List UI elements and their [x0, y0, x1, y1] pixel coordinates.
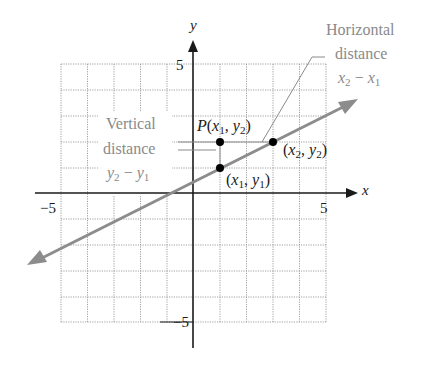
vertical-expression: y2 − y1	[107, 165, 149, 184]
y-tick-neg5: −5	[173, 315, 189, 330]
horizontal-expression: x2 − x1	[338, 70, 380, 89]
vertical-label-line2: distance	[103, 141, 155, 157]
point-q	[269, 138, 277, 146]
vertical-label-line1: Vertical	[106, 116, 156, 132]
point-r	[216, 164, 224, 172]
x-axis-label: x	[362, 183, 369, 198]
axes	[35, 50, 348, 348]
y-tick-5: 5	[176, 58, 184, 73]
line-arrow-left-icon	[27, 250, 47, 265]
point-r-label: (x1, y1)	[226, 172, 270, 191]
point-p-label: P(x1, y2)	[197, 118, 251, 137]
point-q-label: (x2, y2)	[283, 142, 327, 161]
x-tick-5: 5	[320, 201, 328, 216]
horizontal-label-line2: distance	[335, 46, 387, 62]
vertical-distance-leaders	[178, 142, 220, 168]
y-axis-arrow-icon	[188, 40, 198, 52]
line-arrow-right-icon	[338, 99, 358, 114]
horizontal-label-line1: Horizontal	[326, 22, 394, 38]
x-tick-neg5: −5	[40, 201, 56, 216]
horizontal-distance-leader	[262, 57, 325, 142]
point-p	[216, 138, 224, 146]
y-axis-label: y	[190, 18, 197, 33]
x-axis-arrow-icon	[346, 188, 358, 198]
